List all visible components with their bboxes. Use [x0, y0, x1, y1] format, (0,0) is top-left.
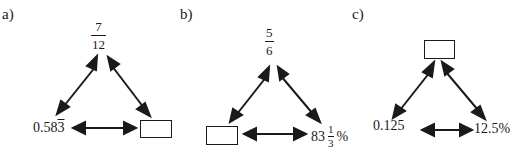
double-arrow-icon	[281, 76, 313, 114]
arrowhead-icon	[278, 67, 288, 80]
percent-sign: %	[337, 130, 349, 144]
double-arrow-icon	[400, 72, 430, 110]
percent-fraction: 1 3	[328, 124, 334, 149]
arrowhead-icon	[108, 57, 119, 70]
arrowhead-icon	[294, 128, 306, 140]
percent-value: 12.5%	[474, 122, 510, 136]
arrowhead-icon	[423, 62, 434, 77]
arrowhead-icon	[259, 67, 269, 81]
arrowhead-icon	[307, 109, 320, 122]
double-arrow-icon	[237, 76, 267, 114]
decimal-value: 0.125	[373, 119, 405, 133]
double-arrow-icon	[112, 66, 144, 108]
percent-value: 83 1 3 %	[311, 124, 348, 149]
panel-b: b) 5 6 83 1 3 %	[175, 0, 350, 155]
double-arrow-icon	[64, 66, 96, 106]
arrowhead-icon	[472, 106, 485, 119]
arrowhead-icon	[137, 103, 150, 116]
percent-whole: 83	[311, 130, 325, 144]
double-arrow-icon	[446, 72, 478, 110]
arrowhead-icon	[73, 122, 85, 134]
arrowhead-icon	[87, 56, 97, 70]
answer-box[interactable]	[206, 126, 238, 145]
decimal-value: 0.583	[33, 121, 65, 135]
arrowhead-icon	[244, 128, 256, 140]
answer-box[interactable]	[140, 120, 172, 138]
arrowhead-icon	[124, 122, 136, 134]
panel-c: c) 0.125 12.5%	[350, 0, 522, 155]
panel-a: a) 7 12 0.583	[0, 0, 175, 155]
arrowhead-icon	[442, 62, 453, 75]
arrowhead-icon	[460, 124, 472, 136]
repeating-digit: 3	[58, 120, 65, 135]
arrowhead-icon	[422, 124, 434, 136]
